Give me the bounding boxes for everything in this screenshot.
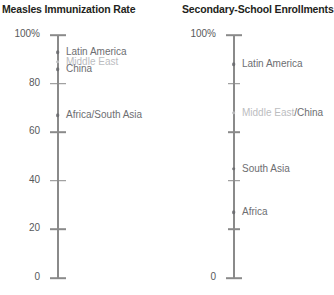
chart-title-enrollments: Secondary-School Enrollments xyxy=(182,3,334,15)
data-label-middle-east-china: Middle East/China xyxy=(242,108,323,118)
chart-panel-enrollments: Secondary-School Enrollments 100% 0 Lati… xyxy=(180,0,333,295)
data-marker-south-asia[interactable] xyxy=(232,167,236,171)
y-tick-100-right: 100% xyxy=(226,34,242,36)
y-tick-80-right xyxy=(228,83,240,85)
data-marker-africa-south-asia[interactable] xyxy=(56,113,60,117)
data-marker-africa[interactable] xyxy=(232,211,236,215)
y-tick-label-100: 100% xyxy=(14,29,40,39)
y-tick-60-right xyxy=(228,131,240,133)
y-tick-60: 60 xyxy=(50,131,66,133)
y-tick-100: 100% xyxy=(50,34,66,36)
data-label-latin-america-right: Latin America xyxy=(242,59,303,69)
y-tick-20-right xyxy=(228,229,240,231)
y-tick-label-80: 80 xyxy=(29,78,40,88)
y-tick-label-60: 60 xyxy=(29,126,40,136)
chart-title-measles: Measles Immunization Rate xyxy=(2,3,135,15)
y-tick-0: 0 xyxy=(50,277,66,279)
y-axis-line-enrollments xyxy=(233,35,235,278)
y-tick-label-40: 40 xyxy=(29,175,40,185)
data-label-africa: Africa xyxy=(242,207,268,217)
data-marker-middle-east-china[interactable] xyxy=(232,111,236,115)
data-label-china-part: /China xyxy=(294,107,323,118)
data-marker-china[interactable] xyxy=(56,67,60,71)
data-label-china: China xyxy=(66,64,92,74)
chart-panel-measles: Measles Immunization Rate 100% 80 60 40 … xyxy=(0,0,180,295)
data-marker-latin-america-right[interactable] xyxy=(232,62,236,66)
y-tick-40: 40 xyxy=(50,180,66,182)
data-marker-middle-east[interactable] xyxy=(56,60,60,64)
y-tick-40-right xyxy=(228,180,240,182)
y-tick-20: 20 xyxy=(50,229,66,231)
data-label-middle-east-part: Middle East xyxy=(242,107,294,118)
data-marker-latin-america[interactable] xyxy=(56,50,60,54)
y-tick-label-0-right: 0 xyxy=(210,272,216,282)
data-label-africa-south-asia: Africa/South Asia xyxy=(66,110,142,120)
y-axis-line-measles xyxy=(57,35,59,278)
data-label-south-asia: South Asia xyxy=(242,164,290,174)
y-tick-label-20: 20 xyxy=(29,224,40,234)
y-tick-80: 80 xyxy=(50,83,66,85)
y-tick-label-100-right: 100% xyxy=(190,29,216,39)
y-tick-label-0: 0 xyxy=(34,272,40,282)
y-tick-0-right: 0 xyxy=(226,277,242,279)
